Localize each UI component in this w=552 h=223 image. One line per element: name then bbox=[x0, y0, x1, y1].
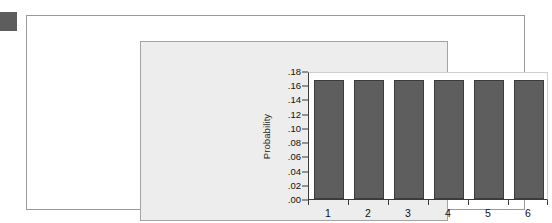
y-axis-tick-labels: .00.02.04.06.08.10.12.14.16.18 bbox=[275, 72, 301, 200]
y-axis-tick-label: .00 bbox=[288, 195, 301, 205]
y-axis-tick-label: .02 bbox=[288, 181, 301, 191]
chart-panel: Probability .00.02.04.06.08.10.12.14.16.… bbox=[140, 41, 448, 221]
y-axis-tick-label: .08 bbox=[288, 138, 301, 148]
bar bbox=[514, 80, 544, 199]
plot-area bbox=[308, 72, 548, 200]
y-axis-tick-label: .06 bbox=[288, 153, 301, 163]
x-axis-tick-label: 1 bbox=[325, 206, 331, 220]
x-axis-tick-label: 6 bbox=[525, 206, 531, 220]
x-axis-tick-label: 5 bbox=[485, 206, 491, 220]
x-axis-tick-label: 3 bbox=[405, 206, 411, 220]
bar-series bbox=[309, 73, 547, 199]
y-axis-title-label: Probability bbox=[262, 113, 273, 158]
page-marker-square bbox=[0, 12, 17, 31]
x-axis-tick-mark bbox=[348, 200, 349, 205]
x-axis-tick-label: 4 bbox=[445, 206, 451, 220]
y-axis-tick-label: .12 bbox=[288, 110, 301, 120]
x-axis-tick-label: 2 bbox=[365, 206, 371, 220]
x-axis-tick-mark bbox=[468, 200, 469, 205]
y-axis-tick-label: .10 bbox=[288, 124, 301, 134]
bar bbox=[394, 80, 424, 199]
bar bbox=[354, 80, 384, 199]
y-axis-tick-label: .16 bbox=[288, 81, 301, 91]
figure-card: Probability .00.02.04.06.08.10.12.14.16.… bbox=[26, 15, 525, 210]
y-axis-tick-label: .04 bbox=[288, 167, 301, 177]
x-axis-tick-labels: 123456 bbox=[308, 206, 548, 220]
y-axis-tick-label: .18 bbox=[288, 67, 301, 77]
x-axis-tick-mark bbox=[547, 200, 548, 205]
bar bbox=[474, 80, 504, 199]
bar bbox=[434, 80, 464, 199]
x-axis-tick-mark bbox=[388, 200, 389, 205]
bar bbox=[314, 80, 344, 199]
x-axis-tick-mark bbox=[428, 200, 429, 205]
x-axis-tick-mark bbox=[308, 200, 309, 205]
y-axis-tick-label: .14 bbox=[288, 96, 301, 106]
x-axis-tick-mark bbox=[508, 200, 509, 205]
y-axis-title: Probability bbox=[259, 72, 275, 200]
